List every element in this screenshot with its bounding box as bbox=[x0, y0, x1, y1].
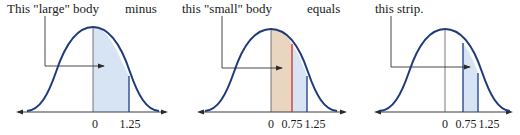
tick-label-0: 0 bbox=[442, 118, 448, 130]
tick-label-0.75: 0.75 bbox=[456, 118, 477, 130]
tick-label-1.25: 1.25 bbox=[305, 118, 326, 130]
axis-right-arrow-icon bbox=[161, 110, 168, 115]
axis-left-arrow-icon bbox=[197, 110, 204, 115]
shaded-region-0.75-to-1.25 bbox=[463, 43, 478, 112]
panel-small-body bbox=[197, 16, 347, 115]
panel-large-body bbox=[16, 16, 168, 115]
caption-large-body: This "large" body bbox=[7, 2, 99, 15]
shaded-region-0.75-to-1.25 bbox=[292, 44, 307, 112]
pointer-arrow bbox=[391, 16, 470, 67]
tick-label-0: 0 bbox=[92, 118, 98, 130]
tick-label-0: 0 bbox=[268, 118, 274, 130]
axis-right-arrow-icon bbox=[340, 110, 347, 115]
tick-label-1.25: 1.25 bbox=[120, 118, 141, 130]
connector-minus: minus bbox=[125, 2, 157, 15]
tick-label-0.75: 0.75 bbox=[282, 118, 303, 130]
axis-left-arrow-icon bbox=[16, 110, 23, 115]
caption-strip: this strip. bbox=[375, 2, 423, 15]
shaded-region-0-to-1.25 bbox=[93, 27, 129, 112]
normal-curves-figure bbox=[0, 0, 520, 135]
tick-label-1.25: 1.25 bbox=[479, 118, 500, 130]
shaded-region-0-to-0.75 bbox=[271, 29, 292, 112]
caption-small-body: this "small" body bbox=[182, 2, 272, 15]
panel-strip bbox=[374, 16, 513, 115]
connector-equals: equals bbox=[307, 2, 340, 15]
